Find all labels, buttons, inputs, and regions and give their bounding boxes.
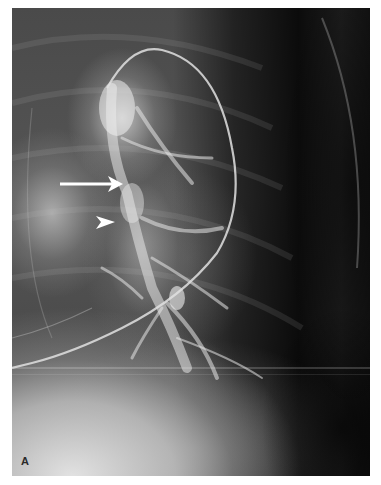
panel-label: A bbox=[21, 455, 29, 467]
white-arrowhead-icon bbox=[96, 216, 115, 229]
radiograph-image bbox=[12, 8, 370, 476]
white-arrow-icon bbox=[60, 176, 123, 192]
annotation-overlay bbox=[12, 8, 370, 476]
